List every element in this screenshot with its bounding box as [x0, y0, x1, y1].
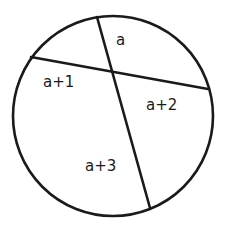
segment-a-plus-3-label: a+3: [85, 157, 116, 175]
diagram-stage: a a+1 a+2 a+3: [0, 0, 225, 227]
segment-a-label: a: [116, 31, 125, 49]
circle-outline: [13, 16, 213, 216]
segment-a-plus-1-label: a+1: [43, 73, 74, 91]
intersecting-chords-diagram: a a+1 a+2 a+3: [0, 0, 225, 227]
segment-a-plus-2-label: a+2: [146, 96, 177, 114]
